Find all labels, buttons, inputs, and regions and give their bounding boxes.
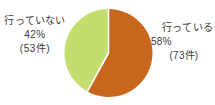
pie-chart: 行っていない 42% (53件) 行っている 58% (73件) [0, 0, 215, 105]
slice-label-no: 行っていない 42% (53件) [2, 14, 68, 56]
slice-label-yes-percent: 58% [148, 35, 214, 49]
slice-label-yes-count: (73件) [148, 49, 214, 63]
slice-label-yes-name: 行っている [148, 21, 214, 35]
slice-label-no-percent: 42% [2, 28, 68, 42]
slice-label-no-count: (53件) [2, 42, 68, 56]
pie-svg [64, 8, 153, 98]
pie-figure [64, 8, 153, 98]
slice-label-no-name: 行っていない [2, 14, 68, 28]
slice-label-yes: 行っている 58% (73件) [148, 21, 214, 63]
